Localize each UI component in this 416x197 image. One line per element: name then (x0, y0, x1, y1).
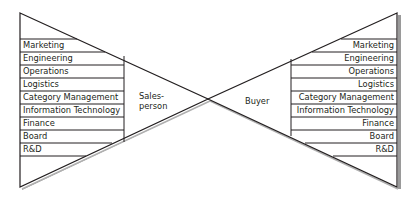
right-function-engineering: Engineering (292, 52, 394, 65)
left-function-operations: Operations (23, 65, 123, 78)
right-function-rnd: R&D (292, 143, 394, 156)
buyer-label: Buyer (245, 96, 269, 106)
salesperson-label-line2: person (139, 101, 167, 111)
left-function-logistics: Logistics (23, 78, 123, 91)
left-function-marketing: Marketing (23, 39, 123, 52)
right-function-operations: Operations (292, 65, 394, 78)
left-function-information-technology: Information Technology (23, 104, 123, 117)
right-function-board: Board (292, 130, 394, 143)
salesperson-label: Sales- person (139, 91, 167, 111)
salesperson-label-line1: Sales- (139, 91, 167, 101)
left-function-engineering: Engineering (23, 52, 123, 65)
right-function-category-management: Category Management (292, 91, 394, 104)
right-function-finance: Finance (292, 117, 394, 130)
left-function-board: Board (23, 130, 123, 143)
right-function-marketing: Marketing (292, 39, 394, 52)
right-triangle-shadow (398, 15, 401, 189)
left-function-finance: Finance (23, 117, 123, 130)
left-function-rnd: R&D (23, 143, 123, 156)
right-function-information-technology: Information Technology (292, 104, 394, 117)
left-function-category-management: Category Management (23, 91, 123, 104)
right-function-logistics: Logistics (292, 78, 394, 91)
